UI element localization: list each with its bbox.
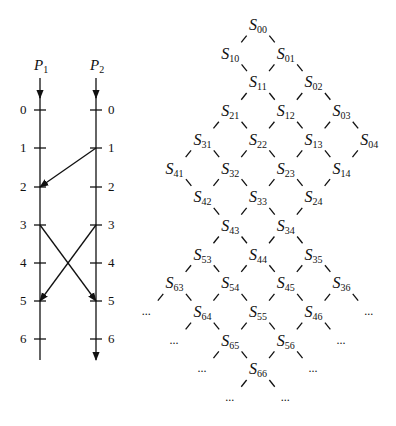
- lattice-edge: [269, 208, 274, 215]
- lattice-edge: [213, 237, 218, 244]
- tick-label: 5: [20, 293, 27, 308]
- lattice-node-s65: S65: [221, 332, 239, 351]
- tick-label: 3: [108, 217, 115, 232]
- diagram-canvas: P10123456P20123456 .....................…: [0, 0, 396, 426]
- lattice-edge: [214, 150, 219, 157]
- lattice-node-s04: S04: [360, 131, 378, 150]
- lattice-node-s43: S43: [221, 217, 239, 236]
- lattice-node-s00: S00: [249, 16, 267, 35]
- lattice-edge: [213, 294, 218, 301]
- lattice-edge: [325, 93, 330, 100]
- lattice-node-s12: S12: [277, 102, 295, 121]
- lattice-node-s14: S14: [332, 160, 350, 179]
- tick-label: 1: [20, 140, 27, 155]
- ellipsis: ...: [170, 333, 179, 347]
- tick-label: 2: [108, 179, 115, 194]
- lattice-edge: [353, 294, 358, 301]
- lattice-edge: [241, 150, 246, 157]
- space-time-diagram: P10123456P20123456: [20, 57, 115, 360]
- tick-label: 6: [20, 331, 27, 346]
- tick-label: 0: [20, 102, 27, 117]
- lattice-edge: [242, 237, 247, 244]
- lattice-node-s46: S46: [305, 303, 323, 322]
- ellipsis: ...: [197, 361, 206, 375]
- lattice-node-s33: S33: [249, 188, 267, 207]
- lattice-edge: [269, 36, 274, 43]
- lattice-node-s22: S22: [249, 131, 267, 150]
- lattice-edge: [241, 265, 246, 272]
- message-arrow: [40, 148, 96, 187]
- lattice-edge: [242, 294, 247, 301]
- process-label: P2: [89, 57, 104, 75]
- lattice-edge: [242, 122, 247, 129]
- lattice-edge: [325, 323, 330, 330]
- lattice-edge: [186, 265, 191, 272]
- lattice-node-s42: S42: [193, 188, 211, 207]
- lattice-edge: [242, 351, 247, 358]
- lattice-edge: [158, 294, 163, 301]
- lattice-node-s44: S44: [249, 246, 267, 265]
- lattice-edge: [186, 150, 191, 157]
- lattice-node-s54: S54: [221, 274, 239, 293]
- lattice-edge: [269, 150, 274, 157]
- ellipsis: ...: [336, 333, 345, 347]
- lattice-node-s45: S45: [277, 274, 295, 293]
- lattice-edge: [325, 265, 330, 272]
- lattice-node-s02: S02: [305, 73, 323, 92]
- tick-label: 2: [20, 179, 27, 194]
- lattice-edge: [213, 179, 218, 186]
- lattice-edge: [297, 294, 302, 301]
- lattice-edge: [353, 122, 358, 129]
- lattice-edge: [325, 179, 330, 186]
- lattice-edge: [297, 208, 302, 215]
- lattice-edge: [297, 265, 302, 272]
- lattice-node-s21: S21: [221, 102, 239, 121]
- process-label: P1: [33, 57, 48, 75]
- lattice-edge: [214, 208, 219, 215]
- tick-label: 0: [108, 102, 115, 117]
- lattice-edge: [352, 150, 357, 157]
- lattice-edge: [297, 351, 302, 358]
- lattice-edge: [214, 323, 219, 330]
- lattice-node-s23: S23: [277, 160, 295, 179]
- lattice-node-s66: S66: [249, 360, 267, 379]
- ellipsis: ...: [364, 304, 373, 318]
- lattice-edge: [241, 380, 246, 387]
- lattice-node-s36: S36: [332, 274, 350, 293]
- lattice-edge: [269, 380, 274, 387]
- tick-label: 6: [108, 331, 115, 346]
- lattice-node-s55: S55: [249, 303, 267, 322]
- lattice-node-s41: S41: [166, 160, 184, 179]
- lattice-edge: [241, 36, 246, 43]
- lattice-edge: [269, 122, 274, 129]
- lattice-edge: [269, 93, 274, 100]
- lattice-edge: [242, 64, 247, 71]
- lattice-node-s10: S10: [221, 45, 239, 64]
- lattice-node-s01: S01: [277, 45, 295, 64]
- lattice-edge: [269, 64, 274, 71]
- lattice-edge: [186, 294, 191, 301]
- ellipsis: ...: [309, 361, 318, 375]
- lattice-edge: [269, 351, 274, 358]
- tick-label: 3: [20, 217, 27, 232]
- lattice-edge: [325, 150, 330, 157]
- lattice-edge: [214, 265, 219, 272]
- lattice-node-s24: S24: [305, 188, 323, 207]
- lattice-node-s34: S34: [277, 217, 295, 236]
- lattice-edge: [241, 208, 246, 215]
- lattice-edge: [297, 237, 302, 244]
- lattice-edge: [269, 265, 274, 272]
- tick-label: 4: [20, 255, 27, 270]
- lattice-edge: [186, 323, 191, 330]
- lattice-node-s13: S13: [305, 131, 323, 150]
- lattice-edge: [325, 122, 330, 129]
- lattice-node-s56: S56: [277, 332, 295, 351]
- tick-label: 1: [108, 140, 115, 155]
- ellipsis: ...: [225, 390, 234, 404]
- lattice-node-s32: S32: [221, 160, 239, 179]
- lattice-edge: [269, 237, 274, 244]
- lattice-edge: [297, 122, 302, 129]
- lattice-edge: [297, 179, 302, 186]
- lattice-node-s35: S35: [305, 246, 323, 265]
- lattice-edge: [269, 179, 274, 186]
